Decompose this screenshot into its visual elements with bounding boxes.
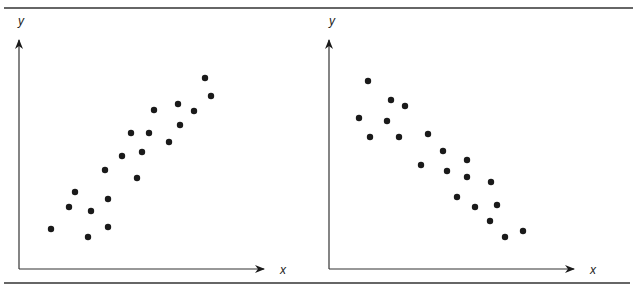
data-point (494, 202, 500, 208)
data-point (520, 228, 526, 234)
right-data-points (356, 78, 526, 240)
data-point (102, 167, 108, 173)
data-point (151, 107, 157, 113)
data-point (134, 175, 140, 181)
data-point (388, 97, 394, 103)
data-point (365, 78, 371, 84)
data-point (444, 168, 450, 174)
data-point (146, 130, 152, 136)
data-point (440, 148, 446, 154)
data-point (128, 130, 134, 136)
data-point (425, 131, 431, 137)
data-point (88, 208, 94, 214)
data-point (384, 118, 390, 124)
data-point (488, 179, 494, 185)
data-point (202, 75, 208, 81)
data-point (367, 134, 373, 140)
left-data-points (48, 75, 214, 240)
data-point (418, 162, 424, 168)
right-y-label: y (328, 14, 336, 28)
data-point (191, 108, 197, 114)
data-point (119, 153, 125, 159)
data-point (396, 134, 402, 140)
data-point (72, 189, 78, 195)
data-point (85, 234, 91, 240)
data-point (356, 115, 362, 121)
left-x-label: x (279, 263, 287, 277)
data-point (402, 103, 408, 109)
data-point (105, 224, 111, 230)
right-x-label: x (589, 263, 597, 277)
data-point (177, 122, 183, 128)
data-point (175, 101, 181, 107)
data-point (105, 196, 111, 202)
data-point (208, 93, 214, 99)
data-point (48, 226, 54, 232)
data-point (464, 157, 470, 163)
data-point (166, 139, 172, 145)
data-point (464, 174, 470, 180)
data-point (487, 218, 493, 224)
left-scatter-plot: y x (17, 14, 287, 277)
data-point (472, 204, 478, 210)
data-point (66, 204, 72, 210)
right-scatter-plot: y x (328, 14, 597, 277)
data-point (139, 149, 145, 155)
data-point (502, 234, 508, 240)
left-y-label: y (17, 14, 25, 28)
data-point (454, 194, 460, 200)
figure: y x y x (0, 0, 633, 290)
